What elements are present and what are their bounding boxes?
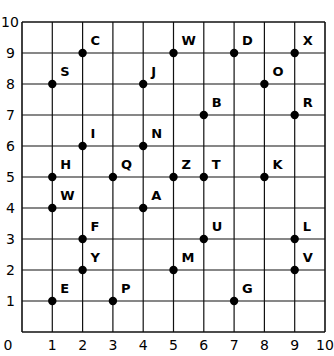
point-marker bbox=[169, 49, 177, 57]
point-marker bbox=[230, 49, 238, 57]
y-axis-tick-labels: 12345678910 bbox=[1, 14, 19, 309]
point-marker bbox=[109, 173, 117, 181]
point-label: F bbox=[91, 219, 100, 234]
x-tick-label: 3 bbox=[108, 337, 117, 353]
x-tick-label: 2 bbox=[78, 337, 87, 353]
point-marker bbox=[169, 266, 177, 274]
y-tick-label: 5 bbox=[6, 169, 15, 185]
point-label: W bbox=[60, 188, 74, 203]
point-label: E bbox=[60, 281, 69, 296]
point-marker bbox=[78, 266, 86, 274]
point-marker bbox=[139, 80, 147, 88]
point-marker bbox=[200, 111, 208, 119]
point-label: W bbox=[182, 33, 196, 48]
point-label: I bbox=[91, 126, 96, 141]
y-tick-label: 10 bbox=[1, 14, 19, 30]
y-tick-label: 9 bbox=[6, 45, 15, 61]
coordinate-grid-chart: 012345678910 12345678910 CWDXSJOBRINHQZT… bbox=[0, 0, 334, 356]
y-tick-label: 7 bbox=[6, 107, 15, 123]
x-tick-label: 1 bbox=[48, 337, 57, 353]
point-marker bbox=[291, 266, 299, 274]
point-label: Q bbox=[121, 157, 132, 172]
point-marker bbox=[48, 297, 56, 305]
point-marker bbox=[200, 173, 208, 181]
point-label: J bbox=[150, 64, 156, 79]
point-label: K bbox=[272, 157, 283, 172]
x-tick-label: 10 bbox=[316, 337, 334, 353]
point-marker bbox=[291, 111, 299, 119]
point-label: N bbox=[151, 126, 162, 141]
point-marker bbox=[78, 235, 86, 243]
data-points: CWDXSJOBRINHQZTKWAFULYMVEPG bbox=[48, 33, 313, 305]
x-tick-label: 0 bbox=[4, 337, 13, 353]
point-label: U bbox=[212, 219, 223, 234]
point-marker bbox=[48, 80, 56, 88]
x-tick-label: 4 bbox=[139, 337, 148, 353]
point-label: M bbox=[182, 250, 195, 265]
y-tick-label: 8 bbox=[6, 76, 15, 92]
point-label: Z bbox=[182, 157, 191, 172]
y-tick-label: 4 bbox=[6, 200, 15, 216]
x-tick-label: 8 bbox=[260, 337, 269, 353]
point-label: L bbox=[303, 219, 311, 234]
x-tick-label: 7 bbox=[230, 337, 239, 353]
point-label: A bbox=[151, 188, 161, 203]
point-label: H bbox=[60, 157, 71, 172]
point-label: T bbox=[212, 157, 221, 172]
point-label: Y bbox=[90, 250, 101, 265]
point-marker bbox=[291, 235, 299, 243]
point-marker bbox=[260, 80, 268, 88]
point-marker bbox=[48, 204, 56, 212]
point-label: P bbox=[121, 281, 131, 296]
y-tick-label: 6 bbox=[6, 138, 15, 154]
x-tick-label: 9 bbox=[290, 337, 299, 353]
y-tick-label: 1 bbox=[6, 293, 15, 309]
x-tick-label: 6 bbox=[199, 337, 208, 353]
point-marker bbox=[109, 297, 117, 305]
point-marker bbox=[230, 297, 238, 305]
point-marker bbox=[48, 173, 56, 181]
x-axis-tick-labels: 012345678910 bbox=[4, 337, 334, 353]
point-label: X bbox=[303, 33, 313, 48]
point-label: S bbox=[60, 64, 69, 79]
point-marker bbox=[139, 204, 147, 212]
point-marker bbox=[78, 49, 86, 57]
point-label: O bbox=[272, 64, 283, 79]
point-marker bbox=[169, 173, 177, 181]
y-tick-label: 2 bbox=[6, 262, 15, 278]
point-label: C bbox=[91, 33, 101, 48]
point-marker bbox=[291, 49, 299, 57]
point-marker bbox=[139, 142, 147, 150]
point-label: R bbox=[303, 95, 313, 110]
point-label: D bbox=[242, 33, 253, 48]
point-label: V bbox=[303, 250, 313, 265]
point-marker bbox=[78, 142, 86, 150]
point-label: G bbox=[242, 281, 253, 296]
point-marker bbox=[200, 235, 208, 243]
point-marker bbox=[260, 173, 268, 181]
x-tick-label: 5 bbox=[169, 337, 178, 353]
point-label: B bbox=[212, 95, 222, 110]
y-tick-label: 3 bbox=[6, 231, 15, 247]
